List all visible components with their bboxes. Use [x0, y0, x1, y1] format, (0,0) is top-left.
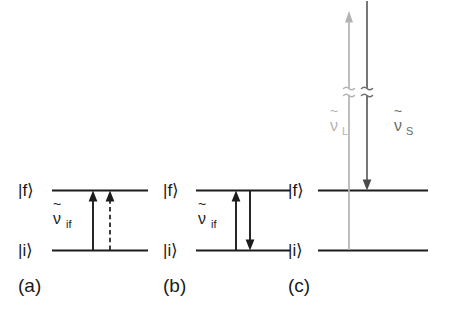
panel-c-scattered-label-subscript: S: [406, 125, 413, 137]
panel-a-caption: (a): [18, 275, 41, 296]
panel-c-scattered-label: ~ ν S: [394, 103, 413, 137]
panel-a-upper-state-label: |f⟩: [18, 181, 34, 200]
panel-c-scattered-arrow-head: [363, 180, 372, 191]
panel-c-laser-label-subscript: L: [342, 125, 348, 137]
panel-c-caption: (c): [288, 275, 310, 296]
energy-level-diagram-figure: |f⟩ |i⟩ ~ ν if (a) |f⟩ |i⟩: [0, 0, 451, 315]
panel-b-absorption-arrow-head: [232, 191, 241, 202]
panel-c-scattered-label-symbol: ν: [394, 117, 402, 134]
panel-b: |f⟩ |i⟩ ~ ν if (b): [163, 181, 290, 296]
panel-c-laser-label-symbol: ν: [330, 117, 338, 134]
diagram-canvas: |f⟩ |i⟩ ~ ν if (a) |f⟩ |i⟩: [0, 0, 451, 315]
panel-b-lower-state-label: |i⟩: [163, 241, 178, 260]
panel-c: |f⟩ |i⟩ ~ ν L: [288, 1, 428, 296]
panel-c-scattered-arrow-break-mark: [362, 87, 373, 97]
panel-a-absorption-solid-arrow-head: [89, 191, 98, 202]
panel-c-laser-arrow-head: [345, 11, 353, 23]
panel-b-emission-arrow-head: [246, 240, 255, 251]
panel-a-absorption-dashed-arrow-head: [106, 191, 115, 202]
panel-c-upper-state-label: |f⟩: [288, 181, 304, 200]
panel-a: |f⟩ |i⟩ ~ ν if (a): [18, 181, 148, 296]
panel-c-laser-label: ~ ν L: [330, 103, 348, 137]
panel-b-upper-state-label: |f⟩: [163, 181, 179, 200]
panel-b-transition-label: ~ ν if: [198, 196, 218, 230]
panel-a-transition-label-symbol: ν: [53, 210, 61, 227]
panel-c-laser-arrow-break-mark: [344, 87, 355, 97]
panel-a-lower-state-label: |i⟩: [18, 241, 33, 260]
panel-b-caption: (b): [163, 275, 186, 296]
panel-b-transition-label-subscript: if: [211, 218, 217, 230]
panel-a-transition-label: ~ ν if: [53, 196, 73, 230]
panel-c-lower-state-label: |i⟩: [288, 241, 303, 260]
panel-b-transition-label-symbol: ν: [198, 210, 206, 227]
panel-a-transition-label-subscript: if: [66, 218, 72, 230]
